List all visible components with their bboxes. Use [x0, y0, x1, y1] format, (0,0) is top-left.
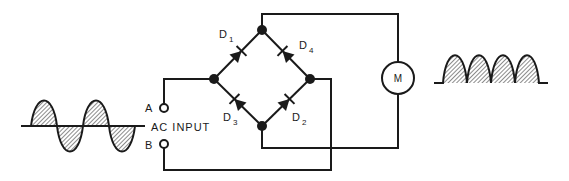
bridge-rectifier-diagram: A AC INPUT B D1: [0, 0, 569, 181]
top-node-dot: [257, 25, 267, 35]
diode-d4-label: D4: [299, 39, 314, 55]
circuit-wires: [164, 14, 398, 170]
bottom-node-dot: [257, 121, 267, 131]
terminal-a-label: A: [145, 102, 153, 114]
left-node-dot: [209, 74, 219, 84]
right-node-dot: [305, 74, 315, 84]
ac-input-label: AC INPUT: [151, 121, 210, 133]
terminal-b-icon: [160, 140, 168, 148]
diode-d3-label: D3: [223, 111, 238, 127]
motor-label: M: [394, 73, 402, 84]
diode-d2-label: D2: [292, 111, 307, 127]
diode-d1-label: D1: [219, 28, 234, 44]
terminal-b-label: B: [145, 139, 153, 151]
input-sine-waveform: [22, 101, 144, 152]
terminal-a-icon: [160, 104, 168, 112]
output-rectified-waveform: [435, 55, 547, 83]
